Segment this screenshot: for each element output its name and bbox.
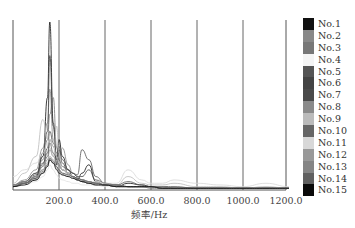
legend-label: No.14 <box>318 173 347 185</box>
legend-label: No.5 <box>318 66 341 78</box>
legend-swatch <box>303 42 314 54</box>
legend-label: No.13 <box>318 161 347 173</box>
plot-area <box>0 0 355 228</box>
legend-swatch <box>303 101 314 113</box>
legend-swatch <box>303 184 314 196</box>
legend-swatch <box>303 113 314 125</box>
legend-swatch <box>303 77 314 89</box>
legend-swatch <box>303 161 314 173</box>
legend-label: No.4 <box>318 54 341 66</box>
legend-item: No.6 <box>303 77 347 89</box>
legend-label: No.8 <box>318 101 341 113</box>
legend-item: No.13 <box>303 161 347 173</box>
legend-item: No.5 <box>303 66 347 78</box>
chart-root: 200.0400.0600.0800.01000.01200.0 频率/Hz N… <box>0 0 355 228</box>
legend-item: No.8 <box>303 101 347 113</box>
x-axis-label: 频率/Hz <box>131 207 168 221</box>
x-tick-label: 200.0 <box>45 195 72 206</box>
legend-label: No.3 <box>318 42 341 54</box>
legend-swatch <box>303 125 314 137</box>
legend-label: No.11 <box>318 137 347 149</box>
legend-item: No.1 <box>303 18 347 30</box>
x-tick-label: 1000.0 <box>226 195 259 206</box>
legend-swatch <box>303 89 314 101</box>
legend-swatch <box>303 66 314 78</box>
legend-label: No.6 <box>318 77 341 89</box>
x-tick-label: 600.0 <box>137 195 164 206</box>
legend-item: No.9 <box>303 113 347 125</box>
legend-label: No.15 <box>318 184 347 196</box>
legend-swatch <box>303 54 314 66</box>
legend-item: No.12 <box>303 149 347 161</box>
legend-label: No.7 <box>318 89 341 101</box>
legend-item: No.10 <box>303 125 347 137</box>
legend-item: No.2 <box>303 30 347 42</box>
legend: No.1No.2No.3No.4No.5No.6No.7No.8No.9No.1… <box>303 18 347 196</box>
legend-label: No.1 <box>318 18 341 30</box>
x-tick-label: 800.0 <box>183 195 210 206</box>
x-tick-label: 1200.0 <box>269 195 302 206</box>
legend-swatch <box>303 173 314 185</box>
legend-label: No.9 <box>318 113 341 125</box>
legend-label: No.12 <box>318 149 347 161</box>
legend-item: No.14 <box>303 173 347 185</box>
legend-item: No.15 <box>303 184 347 196</box>
legend-item: No.4 <box>303 54 347 66</box>
legend-swatch <box>303 18 314 30</box>
legend-item: No.7 <box>303 89 347 101</box>
x-tick-label: 400.0 <box>91 195 118 206</box>
legend-swatch <box>303 30 314 42</box>
legend-item: No.11 <box>303 137 347 149</box>
legend-swatch <box>303 149 314 161</box>
legend-label: No.10 <box>318 125 347 137</box>
legend-swatch <box>303 137 314 149</box>
legend-item: No.3 <box>303 42 347 54</box>
legend-label: No.2 <box>318 30 341 42</box>
